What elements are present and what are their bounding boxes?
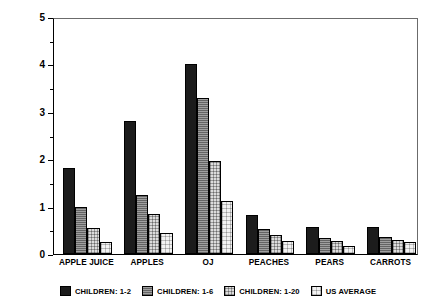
bar-oj-series-2 bbox=[209, 161, 221, 254]
bar-apples-series-3 bbox=[160, 233, 172, 254]
legend-swatch-icon-0 bbox=[60, 286, 71, 296]
legend-label-3: US AVERAGE bbox=[326, 287, 376, 296]
x-axis-category-carrots: CARROTS bbox=[346, 258, 436, 267]
bar-pears-series-0 bbox=[306, 227, 318, 254]
bar-peaches-series-2 bbox=[270, 235, 282, 254]
y-axis-tick-major bbox=[48, 255, 53, 256]
bar-apple-juice-series-1 bbox=[75, 207, 87, 254]
bar-carrots-series-1 bbox=[379, 237, 391, 254]
plot-area bbox=[53, 18, 418, 255]
y-axis-tick-label: 3 bbox=[15, 108, 45, 118]
legend-label-1: CHILDREN: 1-6 bbox=[157, 287, 213, 296]
legend-label-2: CHILDREN: 1-20 bbox=[239, 287, 299, 296]
bar-peaches-series-3 bbox=[282, 241, 294, 254]
bar-pears-series-1 bbox=[319, 238, 331, 254]
chart-legend: CHILDREN: 1-2CHILDREN: 1-6CHILDREN: 1-20… bbox=[0, 281, 436, 301]
bar-pears-series-3 bbox=[343, 246, 355, 254]
y-axis-tick-label: 5 bbox=[15, 13, 45, 23]
legend-swatch-icon-2 bbox=[224, 286, 235, 296]
legend-item-0[interactable]: CHILDREN: 1-2 bbox=[60, 286, 131, 296]
legend-item-2[interactable]: CHILDREN: 1-20 bbox=[224, 286, 299, 296]
bar-apple-juice-series-3 bbox=[100, 242, 112, 254]
bar-oj-series-0 bbox=[185, 64, 197, 254]
y-axis-tick-label: 1 bbox=[15, 203, 45, 213]
y-axis-tick-label: 4 bbox=[15, 60, 45, 70]
bar-apples-series-1 bbox=[136, 195, 148, 254]
bar-pears-series-2 bbox=[331, 241, 343, 254]
bar-carrots-series-0 bbox=[367, 227, 379, 254]
bar-oj-series-1 bbox=[197, 98, 209, 254]
bar-chart-figure: MEAN INTAKE: G/KGBW/DAY 012345 APPLE JUI… bbox=[0, 0, 436, 308]
legend-label-0: CHILDREN: 1-2 bbox=[75, 287, 131, 296]
bar-carrots-series-3 bbox=[404, 242, 416, 254]
legend-swatch-icon-1 bbox=[142, 286, 153, 296]
bar-apples-series-2 bbox=[148, 214, 160, 254]
legend-item-1[interactable]: CHILDREN: 1-6 bbox=[142, 286, 213, 296]
bar-peaches-series-1 bbox=[258, 229, 270, 254]
bar-apples-series-0 bbox=[124, 121, 136, 254]
bar-peaches-series-0 bbox=[246, 215, 258, 254]
bar-oj-series-3 bbox=[221, 201, 233, 254]
bar-carrots-series-2 bbox=[392, 240, 404, 254]
bar-apple-juice-series-2 bbox=[87, 228, 99, 254]
legend-item-3[interactable]: US AVERAGE bbox=[311, 286, 376, 296]
legend-swatch-icon-3 bbox=[311, 286, 322, 296]
y-axis-tick-label: 2 bbox=[15, 155, 45, 165]
bar-apple-juice-series-0 bbox=[63, 168, 75, 254]
